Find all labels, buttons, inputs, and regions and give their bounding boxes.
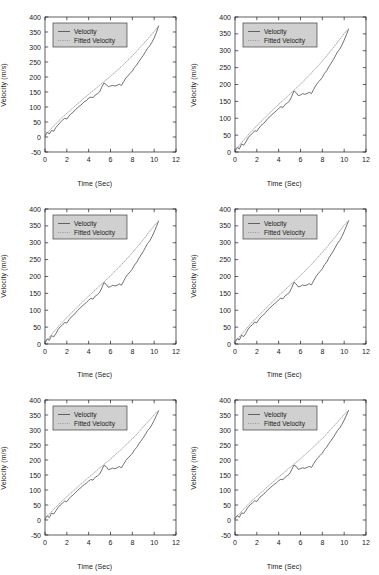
x-tick-label: 6 — [109, 348, 113, 355]
x-tick-label: 8 — [320, 156, 324, 163]
x-tick-label: 12 — [362, 348, 370, 355]
x-tick-label: 8 — [130, 539, 134, 546]
figure-grid: 024681012-50050100150200250300350400Velo… — [0, 0, 379, 575]
x-tick-label: 2 — [65, 156, 69, 163]
y-tick-label: 300 — [29, 44, 41, 51]
x-tick-label: 10 — [340, 348, 348, 355]
x-axis-label: Time (Sec) — [0, 180, 190, 187]
legend-label-velocity: Velocity — [74, 411, 97, 419]
y-tick-label: 250 — [29, 442, 41, 449]
x-tick-label: 4 — [276, 348, 280, 355]
x-tick-label: 4 — [87, 156, 91, 163]
x-tick-label: 10 — [150, 156, 158, 163]
y-tick-label: 200 — [219, 457, 231, 464]
x-tick-label: 0 — [233, 156, 237, 163]
x-tick-label: 10 — [340, 156, 348, 163]
y-tick-label: 350 — [29, 29, 41, 36]
y-tick-label: 50 — [223, 323, 231, 330]
y-tick-label: 50 — [33, 119, 41, 126]
x-tick-label: 8 — [320, 539, 324, 546]
x-tick-label: 0 — [233, 348, 237, 355]
y-tick-label: -50 — [31, 149, 41, 156]
legend-label-velocity: Velocity — [264, 219, 287, 227]
y-tick-label: 300 — [219, 239, 231, 246]
chart-panel-5: 024681012-50050100150200250300350400Velo… — [0, 383, 190, 575]
x-tick-label: 2 — [254, 539, 258, 546]
chart-panel-4: 024681012050100150200250300350400Velocit… — [190, 192, 379, 384]
legend-label-fitted-velocity: Fitted Velocity — [74, 37, 116, 45]
y-tick-label: 100 — [29, 104, 41, 111]
y-tick-label: 0 — [227, 340, 231, 347]
y-tick-label: 200 — [29, 74, 41, 81]
x-tick-label: 12 — [172, 156, 180, 163]
chart-panel-1: 024681012-50050100150200250300350400Velo… — [0, 0, 190, 192]
y-tick-label: 250 — [219, 442, 231, 449]
y-tick-label: 150 — [29, 472, 41, 479]
x-axis-label: Time (Sec) — [190, 371, 379, 378]
y-axis-label: Velocity (m/s) — [190, 63, 197, 106]
y-tick-label: 400 — [29, 14, 41, 21]
x-tick-label: 6 — [298, 348, 302, 355]
y-tick-label: 0 — [227, 517, 231, 524]
y-tick-label: 300 — [29, 427, 41, 434]
y-tick-label: 200 — [219, 81, 231, 88]
x-tick-label: 6 — [298, 539, 302, 546]
legend-label-velocity: Velocity — [264, 28, 287, 36]
y-tick-label: 150 — [29, 290, 41, 297]
plot-area-1: 024681012-50050100150200250300350400Velo… — [0, 0, 190, 192]
y-tick-label: 50 — [33, 502, 41, 509]
x-tick-label: 2 — [254, 348, 258, 355]
y-tick-label: 100 — [219, 487, 231, 494]
y-tick-label: 300 — [29, 239, 41, 246]
x-tick-label: 8 — [130, 156, 134, 163]
x-tick-label: 4 — [276, 539, 280, 546]
x-axis-label: Time (Sec) — [0, 371, 190, 378]
y-tick-label: 100 — [29, 306, 41, 313]
x-tick-label: 6 — [298, 156, 302, 163]
y-tick-label: 200 — [219, 273, 231, 280]
y-tick-label: 100 — [219, 115, 231, 122]
y-tick-label: 200 — [29, 273, 41, 280]
legend-label-velocity: Velocity — [264, 411, 287, 419]
chart-panel-3: 024681012050100150200250300350400Velocit… — [0, 192, 190, 384]
x-tick-label: 12 — [172, 539, 180, 546]
legend-label-velocity: Velocity — [74, 28, 97, 36]
y-tick-label: 250 — [29, 59, 41, 66]
y-tick-label: 400 — [219, 397, 231, 404]
y-tick-label: 100 — [219, 306, 231, 313]
x-tick-label: 4 — [87, 348, 91, 355]
x-tick-label: 0 — [43, 156, 47, 163]
x-tick-label: 0 — [43, 539, 47, 546]
y-tick-label: 250 — [29, 256, 41, 263]
x-tick-label: 12 — [172, 348, 180, 355]
y-tick-label: 150 — [29, 89, 41, 96]
x-tick-label: 10 — [150, 539, 158, 546]
x-tick-label: 8 — [130, 348, 134, 355]
x-axis-label: Time (Sec) — [190, 563, 379, 570]
legend-label-fitted-velocity: Fitted Velocity — [264, 420, 306, 428]
y-tick-label: 50 — [223, 502, 231, 509]
y-tick-label: 350 — [219, 412, 231, 419]
plot-area-2: 024681012050100150200250300350400Velocit… — [190, 0, 379, 192]
y-tick-label: 0 — [227, 149, 231, 156]
y-tick-label: 200 — [29, 457, 41, 464]
y-axis-label: Velocity (m/s) — [0, 254, 7, 297]
series-line-fitted-velocity — [235, 29, 349, 150]
y-axis-label: Velocity (m/s) — [190, 446, 197, 489]
x-tick-label: 12 — [362, 539, 370, 546]
plot-area-3: 024681012050100150200250300350400Velocit… — [0, 192, 190, 384]
legend-label-velocity: Velocity — [74, 219, 97, 227]
y-tick-label: 50 — [33, 323, 41, 330]
legend-label-fitted-velocity: Fitted Velocity — [264, 228, 306, 236]
x-tick-label: 4 — [87, 539, 91, 546]
y-tick-label: 150 — [219, 472, 231, 479]
legend-label-fitted-velocity: Fitted Velocity — [264, 37, 306, 45]
y-tick-label: 250 — [219, 256, 231, 263]
y-tick-label: 0 — [37, 134, 41, 141]
legend-label-fitted-velocity: Fitted Velocity — [74, 420, 116, 428]
y-tick-label: -50 — [220, 532, 230, 539]
x-axis-label: Time (Sec) — [0, 563, 190, 570]
chart-panel-6: 024681012-50050100150200250300350400Velo… — [190, 383, 379, 575]
x-tick-label: 2 — [254, 156, 258, 163]
x-tick-label: 4 — [276, 156, 280, 163]
